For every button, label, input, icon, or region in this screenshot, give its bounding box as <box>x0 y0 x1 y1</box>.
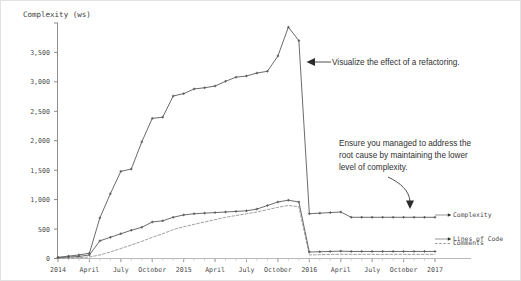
annotation-root-cause-line1: Ensure you managed to address the <box>339 139 471 148</box>
x-tick-label: October <box>390 266 418 274</box>
series-line-lines-of-code <box>58 200 435 257</box>
y-tick-label: 0 <box>46 255 50 263</box>
x-tick-label: April <box>79 266 99 274</box>
x-axis-ticks <box>58 259 435 263</box>
y-axis-tick-labels: 0 500 1,000 1,500 2,000 2,500 3,000 3,50… <box>30 49 50 263</box>
y-tick-label: 1,500 <box>30 167 50 175</box>
series-line-comments <box>58 206 435 259</box>
y-tick-label: 3,000 <box>30 78 50 86</box>
y-tick-label: 2,500 <box>30 108 50 116</box>
annotation-root-cause-line2: root cause by maintaining the lower <box>339 151 468 160</box>
x-tick-label: 2017 <box>427 266 443 274</box>
x-tick-label: July <box>239 266 255 274</box>
series-label-comments-group: Comments <box>435 239 484 247</box>
series-label-complexity: Complexity <box>453 211 492 219</box>
x-tick-label: 2016 <box>301 266 317 274</box>
x-tick-label: April <box>331 266 351 274</box>
series-label-complexity-group: Complexity <box>435 211 492 219</box>
x-tick-label: October <box>264 266 292 274</box>
complexity-line-chart: Complexity (ws) 0 500 1,000 1,500 2,000 … <box>1 1 521 281</box>
annotation-root-cause-line3: level of complexity. <box>339 163 408 172</box>
x-tick-label: April <box>205 266 225 274</box>
annotation-refactoring: Visualize the effect of a refactoring. <box>307 58 460 67</box>
x-axis-tick-labels: 2014AprilJulyOctober2015AprilJulyOctober… <box>50 266 443 274</box>
y-tick-label: 2,000 <box>30 137 50 145</box>
y-tick-label: 3,500 <box>30 49 50 57</box>
y-axis-title: Complexity (ws) <box>23 10 91 19</box>
x-tick-label: 2014 <box>50 266 66 274</box>
y-tick-label: 500 <box>38 226 50 234</box>
annotation-refactoring-text: Visualize the effect of a refactoring. <box>332 58 460 67</box>
chart-frame: Complexity (ws) 0 500 1,000 1,500 2,000 … <box>0 0 521 281</box>
x-tick-label: July <box>113 266 129 274</box>
x-tick-label: 2015 <box>176 266 192 274</box>
series-markers-lines-of-code <box>57 199 437 259</box>
series-label-comments: Comments <box>453 239 484 247</box>
y-tick-label: 1,000 <box>30 196 50 204</box>
x-tick-label: October <box>138 266 166 274</box>
x-tick-label: July <box>364 266 380 274</box>
annotation-root-cause: Ensure you managed to address the root c… <box>339 139 471 209</box>
